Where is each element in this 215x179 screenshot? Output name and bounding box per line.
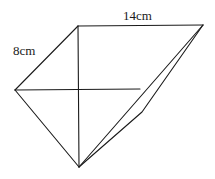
label-top-edge: 14cm: [123, 8, 152, 23]
edge-top-left: [15, 26, 78, 90]
edge-bottom-left: [15, 90, 79, 167]
edge-bottom-to-top-right: [79, 25, 203, 167]
edge-horizontal-diagonal: [15, 89, 140, 90]
edge-top: [78, 25, 203, 26]
edge-vertical-diagonal: [78, 26, 79, 167]
geometry-diagram: 14cm 8cm: [0, 0, 215, 179]
label-left-edge: 8cm: [13, 43, 35, 58]
